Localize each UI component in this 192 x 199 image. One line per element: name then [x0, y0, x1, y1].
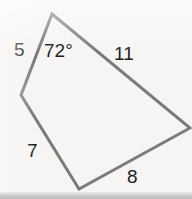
side-length-label-11: 11 [114, 44, 134, 63]
side-length-label-7: 7 [27, 141, 38, 160]
polygon-drawing [0, 0, 192, 199]
geometry-figure-canvas: 5 72° 11 7 8 [0, 0, 192, 199]
angle-measure-label-72: 72° [44, 41, 73, 60]
side-length-label-5: 5 [14, 40, 25, 59]
side-length-label-8: 8 [127, 167, 138, 186]
